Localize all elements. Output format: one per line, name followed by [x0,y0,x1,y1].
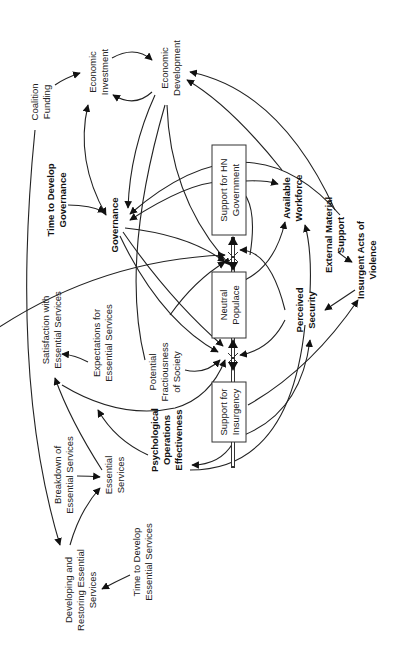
node-satisfaction-with-essential-services: Satisfaction with Essential Services [40,291,63,369]
svg-text:Satisfaction with: Satisfaction with [40,296,51,365]
svg-text:Coalition: Coalition [29,84,40,121]
svg-text:Expectations for: Expectations for [91,309,102,377]
svg-text:Breakdown of: Breakdown of [52,446,63,504]
node-essential-services: Essential Services [103,456,126,495]
svg-text:Violence: Violence [367,241,378,280]
svg-text:Investment: Investment [99,48,110,95]
svg-text:Psychological: Psychological [149,408,160,472]
svg-text:Essential: Essential [103,456,114,495]
node-time-to-develop-governance: Time to Develop Governance [45,163,68,236]
svg-text:External Material: External Material [323,197,334,273]
svg-text:Effectiveness: Effectiveness [173,409,184,470]
node-psychological-operations-effectiveness: Psychological Operations Effectiveness [149,408,184,472]
svg-text:Neutral: Neutral [218,290,229,321]
svg-text:Insurgency: Insurgency [230,389,241,436]
node-perceived-security: Perceived Security [294,287,317,332]
svg-text:Time to Develop: Time to Develop [131,528,142,597]
svg-text:Time to Develop: Time to Develop [45,163,56,236]
svg-text:Fractiousness: Fractiousness [159,342,170,401]
node-developing-and-restoring-essential-services: Developing and Restoring Essential Servi… [63,549,98,631]
node-available-workforce: Available Workforce [281,175,304,222]
svg-text:of Society: of Society [171,351,182,393]
svg-text:Developing and: Developing and [63,557,74,623]
node-insurgent-acts-of-violence: Insurgent Acts of Violence [355,220,378,299]
node-coalition-funding: Coalition Funding [29,84,52,121]
svg-text:Essential Services: Essential Services [64,436,75,514]
svg-text:Populace: Populace [230,285,241,325]
stock-support-hn-government: Support for HN Government [212,145,246,235]
node-time-to-develop-essential-services: Time to Develop Essential Services [131,523,154,601]
node-potential-fractiousness-of-society: Potential Fractiousness of Society [147,342,182,401]
svg-text:Support for: Support for [218,389,229,436]
causal-loop-diagram: Support for HN Government Neutral Popula… [0,0,398,670]
svg-text:Support: Support [335,216,346,253]
svg-text:Restoring Essential: Restoring Essential [75,549,86,631]
svg-text:Essential Services: Essential Services [103,304,114,382]
svg-text:Services: Services [87,572,98,609]
svg-text:Economic: Economic [87,51,98,93]
node-breakdown-of-essential-services: Breakdown of Essential Services [52,436,75,514]
svg-text:Governance: Governance [109,198,120,253]
node-economic-investment: Economic Investment [87,48,110,95]
svg-text:Funding: Funding [41,85,52,119]
svg-text:Development: Development [171,40,182,96]
svg-text:Economic: Economic [159,47,170,89]
svg-text:Perceived: Perceived [294,287,305,332]
svg-text:Governance: Governance [57,173,68,228]
svg-text:Security: Security [306,291,317,329]
svg-text:Insurgent Acts of: Insurgent Acts of [355,220,366,299]
svg-text:Services: Services [115,457,126,494]
svg-text:Essential Services: Essential Services [143,523,154,601]
svg-text:Government: Government [230,164,241,217]
node-expectations-for-essential-services: Expectations for Essential Services [91,304,114,382]
svg-text:Essential Services: Essential Services [52,291,63,369]
node-economic-development: Economic Development [159,40,182,96]
svg-text:Potential: Potential [147,354,158,391]
svg-text:Support for HN: Support for HN [218,158,229,221]
stock-neutral-populace: Neutral Populace [212,272,246,338]
svg-text:Workforce: Workforce [293,175,304,222]
svg-text:Available: Available [281,177,292,218]
node-governance: Governance [109,198,120,253]
svg-text:Operations: Operations [161,415,172,465]
stock-support-for-insurgency: Support for Insurgency [212,382,246,442]
